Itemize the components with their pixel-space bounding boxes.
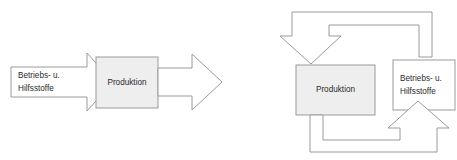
right-diagram-group: Produktion Betriebs- u. Hilfsstoffe [280,12,455,152]
input-arrow-label-line2: Hilfsstoffe [18,84,54,93]
diagram-canvas: Betriebs- u. Hilfsstoffe Produktion Prod… [0,0,457,160]
material-box-label-line1: Betriebs- u. [400,74,442,83]
left-diagram-group: Betriebs- u. Hilfsstoffe Produktion [11,53,222,111]
left-production-box-label: Produktion [107,78,147,87]
material-box-label-line2: Hilfsstoffe [400,87,436,96]
process-flow-diagram: Betriebs- u. Hilfsstoffe Produktion Prod… [0,0,457,160]
output-arrow-shape [158,54,222,110]
right-production-box-label: Produktion [316,85,356,94]
top-loop-arrow-shape [280,12,432,64]
material-box [393,60,455,110]
input-arrow-label-line1: Betriebs- u. [18,71,60,80]
